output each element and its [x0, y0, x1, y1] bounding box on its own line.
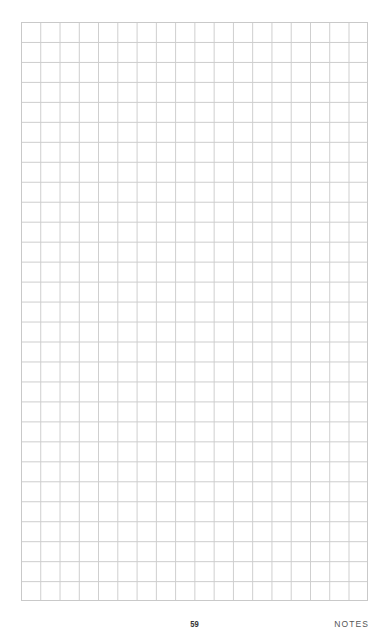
section-label: NOTES: [334, 618, 369, 630]
graph-paper-grid: [21, 22, 368, 601]
notebook-page: 59 NOTES: [0, 0, 389, 635]
page-number: 59: [29, 618, 360, 630]
